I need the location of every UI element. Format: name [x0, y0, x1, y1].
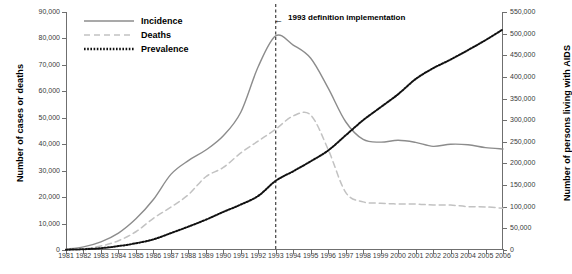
tick-label-left: 40,000 [20, 140, 60, 147]
tick-mark [503, 228, 507, 229]
tick-label-right: 250,000 [510, 138, 554, 145]
legend-label: Deaths [141, 30, 171, 40]
tick-label-left: 10,000 [20, 220, 60, 227]
tick-label-right: 300,000 [510, 116, 554, 123]
legend-swatch-icon [84, 30, 134, 40]
tick-mark [503, 163, 507, 164]
annotation-label: 1993 definition implementation [288, 13, 405, 22]
legend-label: Prevalence [141, 44, 189, 54]
series-line-incidence [66, 35, 503, 249]
tick-label-right: 150,000 [510, 181, 554, 188]
tick-mark [503, 55, 507, 56]
tick-label-right: 50,000 [510, 224, 554, 231]
tick-mark [503, 12, 507, 13]
y-axis-right-title: Number of persons living with AIDS [562, 33, 572, 213]
tick-mark [503, 77, 507, 78]
tick-label-left: 50,000 [20, 114, 60, 121]
tick-label-right: 550,000 [510, 8, 554, 15]
tick-label-right: 100,000 [510, 203, 554, 210]
tick-label-left: 90,000 [20, 8, 60, 15]
legend-item-deaths[interactable]: Deaths [84, 28, 189, 42]
series-line-prevalence [66, 29, 503, 249]
tick-label-right: 450,000 [510, 51, 554, 58]
tick-mark [503, 142, 507, 143]
x-tick-label: 2006 [488, 252, 518, 260]
tick-mark [503, 120, 507, 121]
legend-label: Incidence [141, 16, 183, 26]
tick-label-left: 60,000 [20, 87, 60, 94]
tick-label-right: 200,000 [510, 159, 554, 166]
tick-label-left: 70,000 [20, 61, 60, 68]
x-axis-tick-labels: 1981198219831984198519861987198819891990… [0, 252, 572, 264]
y-axis-left-title: Number of cases or deaths [15, 48, 25, 198]
tick-label-left: 80,000 [20, 34, 60, 41]
legend: IncidenceDeathsPrevalence [84, 14, 189, 56]
tick-label-left: 20,000 [20, 193, 60, 200]
tick-mark [503, 185, 507, 186]
series-line-deaths [66, 112, 503, 249]
tick-label-left: 30,000 [20, 167, 60, 174]
tick-label-right: 400,000 [510, 73, 554, 80]
legend-item-prevalence[interactable]: Prevalence [84, 42, 189, 56]
aids-surveillance-chart: Number of cases or deaths Number of pers… [0, 0, 572, 274]
legend-swatch-icon [84, 16, 134, 26]
annotation-arrow-icon: ← [274, 16, 283, 25]
legend-item-incidence[interactable]: Incidence [84, 14, 189, 28]
tick-label-right: 350,000 [510, 95, 554, 102]
tick-mark [503, 34, 507, 35]
tick-mark [503, 207, 507, 208]
tick-label-right: 500,000 [510, 30, 554, 37]
tick-mark [503, 99, 507, 100]
legend-swatch-icon [84, 44, 134, 54]
